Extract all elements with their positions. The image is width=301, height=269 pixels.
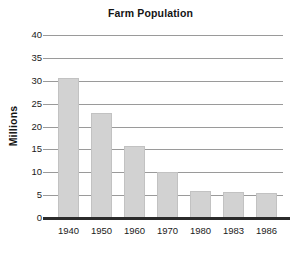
farm-population-bar-chart: Farm Population Millions 051015202530354… [0,0,301,269]
bar [256,193,277,218]
plot-area: 0510152025303540 19401950196019701980198… [0,0,301,269]
y-tick-label: 10 [2,167,42,177]
y-tick-label: 25 [2,99,42,109]
y-tick-mark [43,172,52,173]
y-tick-label: 0 [2,213,42,223]
bar [157,172,178,218]
y-tick-mark [43,127,52,128]
gridline [52,104,283,105]
y-tick-label: 35 [2,53,42,63]
bar [91,113,112,218]
y-tick-mark [43,81,52,82]
gridline [52,58,283,59]
x-tick-label: 1986 [245,226,289,236]
y-tick-label: 30 [2,76,42,86]
bar [124,146,145,218]
y-tick-mark [43,58,52,59]
y-tick-label: 40 [2,30,42,40]
y-tick-mark [43,149,52,150]
gridline [52,81,283,82]
bar [223,192,244,218]
gridline [52,35,283,36]
gridline [52,149,283,150]
y-tick-mark [43,104,52,105]
y-tick-label: 5 [2,190,42,200]
y-tick-mark [43,195,52,196]
bar [190,191,211,218]
y-tick-label: 20 [2,122,42,132]
x-axis-line [43,217,290,220]
gridline [52,127,283,128]
y-tick-label: 15 [2,144,42,154]
y-tick-mark [43,35,52,36]
bar [58,78,79,218]
